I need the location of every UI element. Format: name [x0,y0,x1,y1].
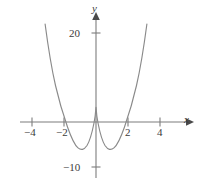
y-tick-label--10: −10 [63,162,80,173]
y-tick-label-20: 20 [69,28,80,39]
x-tick-label-2: 2 [125,127,131,138]
graph-figure: −4 −2 2 4 20 −10 x y [0,0,200,195]
x-tick-label--4: −4 [24,127,36,138]
x-tick-label--2: −2 [56,127,68,138]
x-tick-label-4: 4 [157,127,163,138]
y-axis-label: y [92,3,97,14]
x-axis-label: x [184,114,189,125]
coordinate-plot [0,0,200,195]
